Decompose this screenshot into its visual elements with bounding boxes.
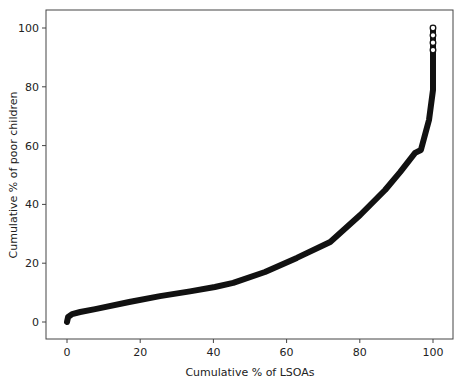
y-tick-label: 80 bbox=[25, 81, 39, 94]
y-tick-label: 40 bbox=[25, 198, 39, 211]
x-tick-label: 80 bbox=[353, 346, 367, 359]
x-axis-title: Cumulative % of LSOAs bbox=[185, 366, 314, 379]
open-circle-marker bbox=[430, 40, 436, 46]
y-axis-ticks: 020406080100 bbox=[18, 22, 46, 329]
data-curve bbox=[67, 28, 433, 322]
y-tick-label: 60 bbox=[25, 140, 39, 153]
open-circle-marker bbox=[430, 33, 436, 39]
plot-frame bbox=[46, 10, 453, 339]
x-tick-label: 100 bbox=[423, 346, 444, 359]
y-tick-label: 0 bbox=[32, 316, 39, 329]
open-circle-marker bbox=[430, 25, 436, 31]
y-tick-label: 100 bbox=[18, 22, 39, 35]
open-circle-marker bbox=[430, 47, 436, 53]
x-axis-ticks: 020406080100 bbox=[64, 339, 444, 359]
x-tick-label: 40 bbox=[206, 346, 220, 359]
x-tick-label: 20 bbox=[133, 346, 147, 359]
y-axis-title: Cumulative % of poor children bbox=[7, 92, 20, 259]
concentration-curve-chart: 020406080100 020406080100 Cumulative % o… bbox=[0, 0, 463, 386]
x-tick-label: 0 bbox=[64, 346, 71, 359]
y-tick-label: 20 bbox=[25, 257, 39, 270]
x-tick-label: 60 bbox=[280, 346, 294, 359]
